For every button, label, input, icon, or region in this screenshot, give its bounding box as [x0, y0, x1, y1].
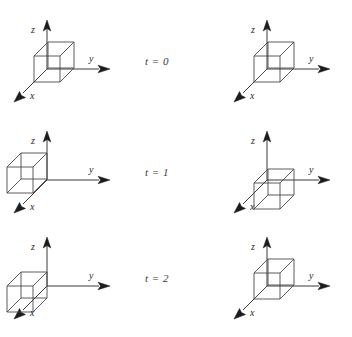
- cube-shape: [7, 272, 47, 312]
- x-axis-label: x: [29, 201, 35, 212]
- y-axis-label: y: [308, 53, 314, 64]
- panel-right-t2: z y x: [220, 221, 352, 337]
- cube-shape: [254, 169, 294, 209]
- cube-translation-figure: z y x z y x: [0, 0, 352, 337]
- cube-edge-tl: [34, 42, 48, 56]
- time-label-t1: t = 1: [145, 166, 169, 178]
- z-axis-label: z: [250, 135, 255, 146]
- cube-edge-tl: [254, 259, 268, 273]
- cube-edge-br: [280, 195, 294, 209]
- cube-edge-br: [280, 285, 294, 299]
- y-axis-label: y: [88, 164, 94, 175]
- cube-shape: [7, 153, 47, 193]
- panel-left-t2: z y x: [0, 221, 160, 337]
- cube-shape: [34, 42, 74, 82]
- x-axis-arrowhead: [234, 92, 246, 103]
- x-axis-arrowhead: [234, 203, 246, 214]
- x-axis-label: x: [249, 90, 255, 101]
- x-axis-arrowhead: [234, 309, 246, 320]
- y-axis-arrowhead: [98, 282, 110, 290]
- x-axis-label: x: [29, 90, 35, 101]
- panel-left-t1: z y x: [0, 111, 160, 221]
- y-axis-arrowhead: [318, 176, 330, 184]
- cube-edge-br: [60, 68, 74, 82]
- y-axis-label: y: [308, 164, 314, 175]
- z-axis-label: z: [250, 241, 255, 252]
- cube-shape: [254, 42, 294, 82]
- y-axis-arrowhead: [98, 65, 110, 73]
- z-axis-label: z: [30, 24, 35, 35]
- cube-edge-tl: [7, 272, 21, 286]
- x-axis-label: x: [249, 307, 255, 318]
- cube-edge-br: [33, 298, 47, 312]
- y-axis-label: y: [88, 270, 94, 281]
- z-axis-label: z: [30, 135, 35, 146]
- cube-edge-br: [280, 68, 294, 82]
- cube-shape: [254, 259, 294, 299]
- time-label-t0: t = 0: [145, 55, 169, 67]
- z-axis-label: z: [250, 24, 255, 35]
- panel-left-t0: z y x: [0, 0, 160, 115]
- y-axis-label: y: [308, 270, 314, 281]
- panel-right-t1: z y x: [220, 111, 352, 221]
- panel-right-t0: z y x: [220, 0, 352, 115]
- y-axis-label: y: [88, 53, 94, 64]
- cube-edge-tl: [254, 42, 268, 56]
- y-axis-arrowhead: [98, 176, 110, 184]
- cube-edge-tl: [7, 153, 21, 167]
- x-axis-arrowhead: [14, 92, 26, 103]
- y-axis-arrowhead: [318, 282, 330, 290]
- cube-edge-br: [33, 179, 47, 193]
- time-label-t2: t = 2: [145, 272, 169, 284]
- z-axis-label: z: [30, 241, 35, 252]
- x-axis-arrowhead: [14, 203, 26, 214]
- y-axis-arrowhead: [318, 65, 330, 73]
